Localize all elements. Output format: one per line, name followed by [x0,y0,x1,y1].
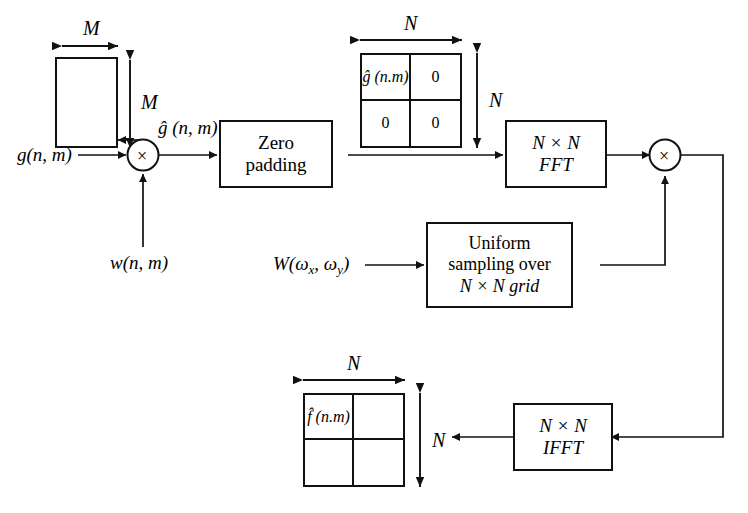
ifft-line1: N × N [539,415,587,436]
wire-uniform-sampling-to-spectral-multiplier [600,176,665,265]
padded-matrix-cell-bottom-left: 0 [362,101,411,147]
zero-padding-line1: Zero [258,132,294,153]
uniform-sampling-line2: sampling over [448,254,550,274]
wire-spectral-multiplier-to-ifft [611,155,723,437]
output-matrix-cell-bottom-right [354,440,403,485]
padded-matrix: ĝ (n.m) 0 0 0 [360,53,462,148]
zero-padding-block[interactable]: Zero padding [219,120,333,188]
input-image-square [55,57,118,148]
label-windowed-signal: ĝ (n, m) [158,118,218,137]
padded-matrix-cell-top-left: ĝ (n.m) [362,55,411,101]
fft-line1: N × N [532,132,580,153]
output-matrix-cell-top-right [354,395,403,440]
ifft-line2: IFFT [543,437,583,458]
label-input-signal: g(n, m) [17,145,72,164]
ifft-block[interactable]: N × N IFFT [513,403,613,471]
block-diagram: Zero padding ĝ (n.m) 0 0 0 N × N FFT Uni… [0,0,748,513]
label-frequency-window: W(ωx, ωy) [273,254,349,277]
label-frequency-window-mid: , ω [314,253,337,274]
label-dim-n-top-output: N [347,353,360,373]
output-matrix: f̂ (n.m) [303,393,405,487]
fft-line2: FFT [539,154,573,175]
padded-matrix-cell-bottom-right: 0 [411,101,460,147]
label-dim-n-top-padded: N [404,13,417,33]
label-window-signal: w(n, m) [110,253,168,272]
uniform-sampling-line3: N × N grid [460,276,540,296]
padded-matrix-cell-top-right: 0 [411,55,460,101]
fft-block[interactable]: N × N FFT [505,120,607,188]
label-dim-n-right-padded: N [489,90,502,110]
label-frequency-window-head: W(ω [273,253,309,274]
spectral-multiplier-symbol: × [659,147,669,165]
input-multiplier-symbol: × [137,147,147,165]
output-matrix-cell-bottom-left [305,440,354,485]
output-matrix-cell-top-left: f̂ (n.m) [305,395,354,440]
label-dim-m-top: M [83,18,100,38]
uniform-sampling-block[interactable]: Uniform sampling over N × N grid [426,222,573,308]
label-frequency-window-end: ) [343,253,349,274]
label-dim-n-right-output: N [432,430,445,450]
label-dim-m-right: M [141,92,158,112]
zero-padding-line2: padding [245,154,306,175]
uniform-sampling-line1: Uniform [468,233,530,253]
